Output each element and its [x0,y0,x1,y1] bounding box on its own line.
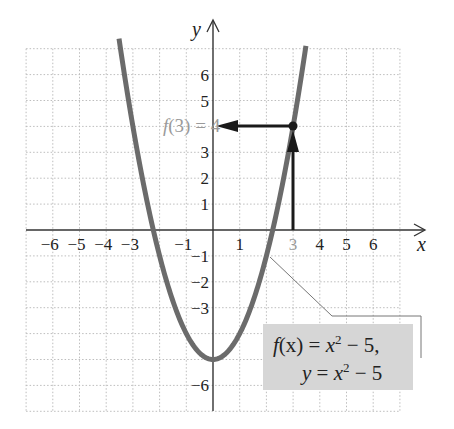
x-tick-label: −1 [174,235,192,254]
y-tick-label: −2 [191,273,209,292]
y-tick-label: −3 [191,299,209,318]
parabola-chart: x y −6−5−4−3−11345665321−1−2−3−6 f(3) = … [0,0,454,429]
y-tick-label: 2 [201,169,210,188]
x-tick-label: −6 [41,235,59,254]
x-tick-label: 3 [289,235,298,254]
y-tick-label: 1 [201,195,210,214]
function-label-line2: y = x2 − 5 [300,360,382,385]
f3-label: f(3) = 4 [163,115,221,137]
x-tick-label: 5 [342,235,351,254]
y-tick-label: 5 [201,92,210,111]
y-axis-label: y [190,18,201,41]
x-axis-label: x [416,233,426,255]
x-tick-label: −5 [67,235,85,254]
x-tick-label: −4 [94,235,113,254]
y-tick-label: 6 [201,66,210,85]
point-3-4 [289,122,298,131]
x-tick-label: 4 [316,235,325,254]
y-tick-label: 3 [201,143,210,162]
x-tick-label: 1 [235,235,244,254]
x-tick-label: 6 [369,235,378,254]
function-label-line1: f(x) = x2 − 5, [273,332,380,357]
x-tick-label: −3 [121,235,139,254]
y-tick-label: −6 [191,376,209,395]
y-tick-label: −1 [191,247,209,266]
